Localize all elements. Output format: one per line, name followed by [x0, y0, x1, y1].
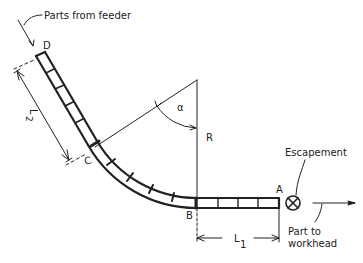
part-to-workhead-label-2: workhead	[288, 238, 337, 249]
chute-diagram: Parts from feeder D C B A R α L 2 L 1 Es…	[0, 0, 363, 263]
dimension-l2-label: L 2	[24, 109, 39, 122]
parts-from-feeder-label: Parts from feeder	[44, 10, 132, 21]
dimension-l1-label: L 1	[234, 233, 246, 250]
svg-text:L: L	[28, 109, 39, 115]
point-d-label: D	[43, 40, 51, 51]
dimension-l2	[14, 60, 86, 165]
point-b-label: B	[186, 210, 193, 221]
point-a-label: A	[276, 184, 283, 195]
chute-straight-ba	[197, 198, 279, 208]
escapement-label: Escapement	[285, 147, 347, 158]
chute-curve-cb	[88, 141, 197, 208]
escapement-leader	[296, 160, 305, 195]
angle-label: α	[177, 102, 184, 113]
chute-straight-dc	[36, 52, 97, 145]
angle-arc	[155, 101, 196, 130]
svg-text:2: 2	[24, 116, 34, 122]
radius-lines	[95, 80, 197, 208]
point-c-label: C	[83, 154, 93, 166]
feeder-leader	[18, 15, 42, 46]
radius-label: R	[206, 132, 213, 143]
output-arrow	[313, 201, 355, 222]
part-to-workhead-label-1: Part to	[288, 226, 321, 237]
svg-text:1: 1	[240, 239, 246, 250]
escapement-icon	[286, 196, 300, 210]
